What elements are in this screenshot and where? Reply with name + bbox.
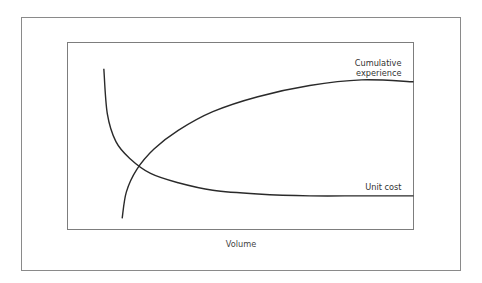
cumulative-experience-label-line-1: Cumulative bbox=[355, 58, 402, 68]
cumulative-experience-label-line-2: experience bbox=[356, 68, 401, 78]
unit-cost-label-line-1: Unit cost bbox=[365, 182, 402, 192]
x-axis-label: Volume bbox=[226, 239, 256, 249]
chart-figure: Unit costCumulativeexperience Volume bbox=[0, 0, 482, 283]
